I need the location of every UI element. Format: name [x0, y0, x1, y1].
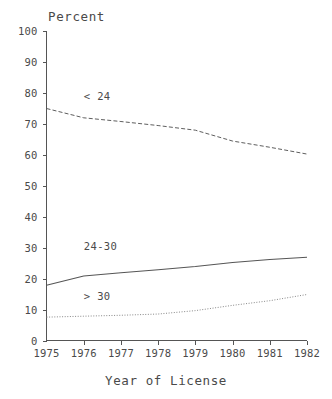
x-tick-label: 1978: [145, 347, 171, 359]
x-tick-label: 1976: [71, 347, 97, 359]
series-annotations: < 2424-30> 30: [84, 90, 118, 302]
y-tick-label: 40: [24, 211, 37, 223]
series-annotation--24: < 24: [84, 90, 111, 102]
y-tick-label: 70: [24, 118, 37, 130]
y-tick-label: 10: [24, 304, 37, 316]
x-tick-label: 1975: [33, 347, 59, 359]
series-line-24-30: [47, 257, 308, 285]
y-axis-title: Percent: [48, 9, 105, 24]
chart-container: Percent 0102030405060708090100 197519761…: [0, 0, 332, 399]
series-annotation-24-30: 24-30: [84, 240, 118, 252]
x-tick-label: 1977: [108, 347, 134, 359]
x-tick-label: 1979: [182, 347, 208, 359]
x-tick-label: 1980: [220, 347, 246, 359]
y-axis-ticks: 0102030405060708090100: [18, 25, 47, 347]
x-axis-ticks: 19751976197719781979198019811982: [33, 341, 320, 359]
y-tick-label: 50: [24, 180, 37, 192]
y-tick-label: 30: [24, 242, 37, 254]
series-annotation--30: > 30: [84, 290, 111, 302]
line-chart: Percent 0102030405060708090100 197519761…: [0, 0, 332, 399]
y-tick-label: 90: [24, 56, 37, 68]
x-tick-label: 1982: [294, 347, 320, 359]
series-line--24: [47, 109, 308, 155]
y-tick-label: 0: [31, 335, 38, 347]
y-tick-label: 60: [24, 149, 37, 161]
x-tick-label: 1981: [257, 347, 283, 359]
y-tick-label: 100: [18, 25, 38, 37]
y-tick-label: 80: [24, 87, 37, 99]
series-group: [47, 109, 308, 318]
x-axis-title: Year of License: [105, 373, 227, 388]
y-tick-label: 20: [24, 273, 37, 285]
